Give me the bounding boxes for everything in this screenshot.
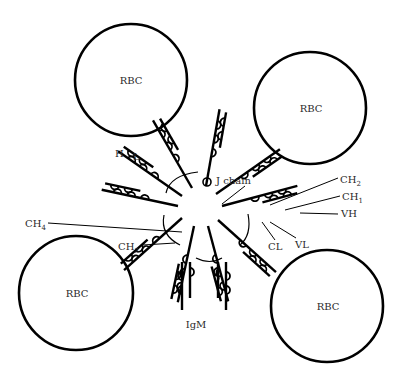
label-ch4: CH4 <box>25 218 46 232</box>
label-h: H <box>115 148 124 159</box>
label-l: L <box>133 151 140 162</box>
label-ch1: CH1 <box>342 191 363 205</box>
label-igm: IgM <box>186 319 207 330</box>
label-cl: CL <box>268 241 283 252</box>
rbc-label-top-right: RBC <box>300 103 323 114</box>
rbc-label-top-left: RBC <box>120 75 143 86</box>
rbc-label-bottom-left: RBC <box>66 288 89 299</box>
label-ch2: CH2 <box>340 174 361 188</box>
label-ch3: CH3 <box>118 241 139 255</box>
rbc-label-bottom-right: RBC <box>317 301 340 312</box>
label-j-chain: J chain <box>215 175 251 186</box>
label-vl: VL <box>294 239 309 250</box>
label-vh: VH <box>340 208 357 219</box>
igm-rbc-diagram: RBC RBC RBC RBC H L J chain CH2 CH1 VH C… <box>0 0 401 378</box>
leader-lines <box>48 178 340 245</box>
